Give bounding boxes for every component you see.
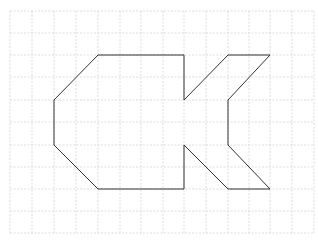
grid-diagram <box>0 0 318 244</box>
grid-lines <box>10 11 314 233</box>
